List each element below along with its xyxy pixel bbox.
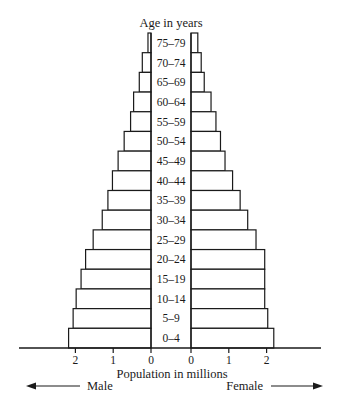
male-bar — [112, 171, 151, 191]
tick-label-male: 0 — [148, 354, 154, 366]
x-axis-label: Population in millions — [116, 367, 227, 381]
male-bar — [139, 72, 151, 92]
male-bar — [69, 328, 151, 348]
male-bar — [131, 112, 151, 132]
male-bar — [73, 309, 151, 329]
age-group-label: 5–9 — [162, 312, 180, 324]
female-label: Female — [226, 379, 263, 393]
age-group-label: 55–59 — [157, 116, 186, 128]
age-group-label: 45–49 — [157, 155, 186, 167]
female-bars — [191, 33, 274, 348]
female-bar — [191, 151, 225, 171]
female-bar — [191, 328, 274, 348]
age-group-label: 60–64 — [157, 96, 186, 108]
male-bar — [102, 210, 151, 230]
male-direction-indicator: Male — [26, 379, 113, 393]
male-bar — [118, 151, 151, 171]
age-group-label: 70–74 — [157, 57, 186, 69]
age-group-label: 0–4 — [162, 332, 180, 344]
tick-label-male: 2 — [73, 354, 79, 366]
male-bar — [108, 191, 151, 211]
tick-label-male: 1 — [110, 354, 116, 366]
male-bar — [142, 53, 151, 73]
female-bar — [191, 112, 216, 132]
population-pyramid-chart: Age in years 75–7970–7465–6960–6455–5950… — [0, 0, 342, 411]
female-direction-indicator: Female — [226, 379, 323, 393]
age-group-label: 35–39 — [157, 194, 186, 206]
age-group-label: 25–29 — [157, 234, 186, 246]
age-group-label: 75–79 — [157, 37, 186, 49]
female-bar — [191, 33, 198, 53]
tick-label-female: 1 — [226, 354, 232, 366]
age-group-label: 40–44 — [157, 175, 186, 187]
chart-canvas: Age in years 75–7970–7465–6960–6455–5950… — [0, 0, 342, 411]
age-group-label: 50–54 — [157, 135, 186, 147]
female-bar — [191, 191, 240, 211]
female-bar — [191, 230, 256, 250]
age-group-label: 20–24 — [157, 253, 186, 265]
age-group-label: 10–14 — [157, 293, 186, 305]
female-bar — [191, 289, 265, 309]
male-bars — [69, 33, 151, 348]
female-bar — [191, 72, 204, 92]
male-bar — [93, 230, 151, 250]
male-bar — [124, 131, 151, 151]
female-bar — [191, 269, 265, 289]
right-arrow-icon — [313, 383, 323, 390]
female-bar — [191, 92, 211, 112]
male-label: Male — [87, 379, 113, 393]
age-group-labels: 75–7970–7465–6960–6455–5950–5445–4940–44… — [157, 37, 186, 344]
female-bar — [191, 53, 201, 73]
female-bar — [191, 309, 268, 329]
female-bar — [191, 171, 233, 191]
male-bar — [134, 92, 151, 112]
tick-label-female: 0 — [188, 354, 194, 366]
tick-label-female: 2 — [264, 354, 270, 366]
chart-title: Age in years — [139, 16, 202, 30]
left-arrow-icon — [26, 383, 36, 390]
male-bar — [86, 250, 151, 270]
male-bar — [81, 269, 151, 289]
age-group-label: 30–34 — [157, 214, 186, 226]
female-bar — [191, 210, 248, 230]
female-bar — [191, 131, 220, 151]
age-group-label: 65–69 — [157, 76, 186, 88]
male-bar — [76, 289, 151, 309]
age-group-label: 15–19 — [157, 273, 186, 285]
female-bar — [191, 250, 265, 270]
